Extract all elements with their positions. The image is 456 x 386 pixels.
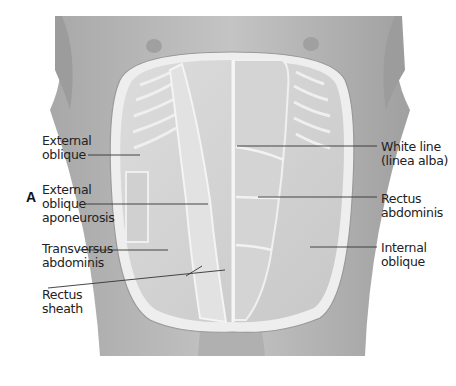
anatomy-figure: A External oblique External oblique apon… xyxy=(0,0,456,386)
label-white-line: White line (linea alba) xyxy=(381,140,448,168)
label-external-oblique: External oblique xyxy=(42,134,91,162)
label-transversus-abdominis: Transversus abdominis xyxy=(42,242,113,270)
label-rectus-abdominis: Rectus abdominis xyxy=(381,192,443,220)
panel-label: A xyxy=(26,189,36,205)
label-external-oblique-aponeurosis: External oblique aponeurosis xyxy=(42,183,115,225)
label-internal-oblique: Internal oblique xyxy=(381,241,427,269)
label-rectus-sheath: Rectus sheath xyxy=(42,288,83,316)
